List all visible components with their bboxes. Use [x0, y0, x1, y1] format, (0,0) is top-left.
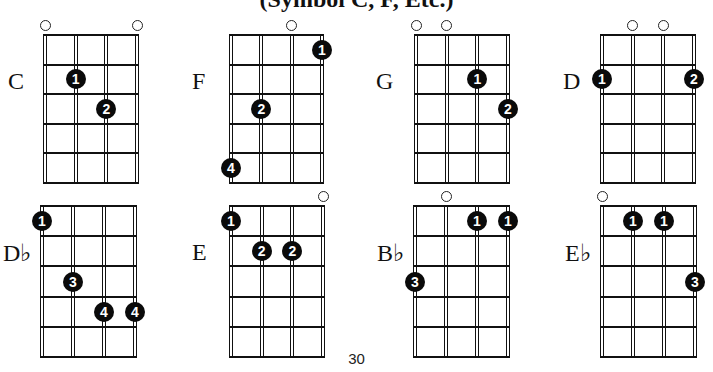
nut-line: [414, 34, 510, 36]
fret-line: [40, 296, 137, 298]
fret-line: [413, 265, 510, 267]
fret-line: [413, 235, 510, 237]
chord-name: E: [192, 239, 207, 266]
string-line: [692, 35, 696, 183]
nut-line: [600, 34, 696, 36]
finger-dot: 1: [66, 69, 86, 89]
finger-dot: 1: [623, 211, 643, 231]
chord-name: D♭: [3, 239, 31, 267]
fret-line: [43, 64, 139, 66]
fret-line: [229, 265, 325, 267]
finger-dot: 4: [221, 158, 241, 178]
chord-name: B♭: [377, 239, 404, 267]
finger-dot: 3: [405, 272, 425, 292]
fret-line: [414, 123, 510, 125]
chord-name: F: [192, 68, 205, 95]
fret-line: [40, 265, 137, 267]
fret-line: [414, 64, 510, 66]
finger-dot: 1: [467, 69, 487, 89]
finger-dot: 1: [312, 40, 332, 60]
fret-line: [600, 235, 697, 237]
string-line: [445, 35, 449, 183]
page-title: (Symbol C, F, Etc.): [0, 0, 713, 13]
open-string-icon: [40, 20, 51, 31]
finger-dot: 3: [63, 272, 83, 292]
open-string-icon: [441, 191, 452, 202]
finger-dot: 1: [654, 211, 674, 231]
finger-dot: 4: [125, 302, 145, 322]
nut-line: [229, 34, 324, 36]
finger-dot: 1: [498, 211, 518, 231]
fret-line: [40, 235, 137, 237]
fretboard-grid: 124: [231, 35, 322, 183]
fret-line: [600, 152, 696, 154]
fret-line: [229, 123, 324, 125]
finger-dot: 2: [498, 99, 518, 119]
chord-name: C: [8, 68, 24, 95]
fret-line: [40, 326, 137, 328]
fretboard-grid: 12: [45, 35, 137, 183]
fret-line: [229, 326, 325, 328]
fret-line: [600, 123, 696, 125]
fret-line: [229, 93, 324, 95]
string-line: [290, 206, 294, 357]
finger-dot: 2: [251, 99, 271, 119]
fretboard-grid: 122: [231, 206, 323, 357]
string-line: [74, 35, 78, 183]
nut-line: [229, 205, 325, 207]
nut-line: [600, 205, 697, 207]
finger-dot: 1: [467, 211, 487, 231]
finger-dot: 2: [96, 99, 116, 119]
string-line: [661, 35, 665, 183]
fretboard-grid: 1344: [42, 206, 135, 357]
fret-line: [43, 93, 139, 95]
string-line: [600, 35, 604, 183]
string-line: [102, 206, 106, 357]
fretboard-grid: 113: [415, 206, 508, 357]
finger-dot: 2: [252, 241, 272, 261]
fret-line: [229, 152, 324, 154]
fret-line: [229, 296, 325, 298]
finger-dot: 2: [282, 241, 302, 261]
fret-line: [413, 326, 510, 328]
fret-line: [229, 64, 324, 66]
fret-line: [413, 296, 510, 298]
page-number: 30: [0, 350, 713, 367]
fretboard-grid: 12: [602, 35, 694, 183]
fretboard-grid: 12: [416, 35, 508, 183]
open-string-icon: [411, 20, 422, 31]
string-line: [321, 206, 325, 357]
fret-line: [43, 182, 139, 184]
fret-line: [600, 64, 696, 66]
string-line: [43, 35, 47, 183]
finger-dot: 4: [94, 302, 114, 322]
string-line: [631, 35, 635, 183]
open-string-icon: [658, 20, 669, 31]
open-string-icon: [132, 20, 143, 31]
open-string-icon: [597, 191, 608, 202]
fret-line: [414, 152, 510, 154]
string-line: [133, 206, 137, 357]
open-string-icon: [318, 191, 329, 202]
chord-name: G: [376, 68, 393, 95]
finger-dot: 1: [221, 211, 241, 231]
fret-line: [43, 152, 139, 154]
fret-line: [229, 235, 325, 237]
string-line: [600, 206, 604, 357]
fret-line: [600, 326, 697, 328]
string-line: [260, 206, 264, 357]
finger-dot: 1: [592, 69, 612, 89]
fret-line: [414, 93, 510, 95]
chord-name: D: [563, 68, 580, 95]
nut-line: [43, 34, 139, 36]
open-string-icon: [441, 20, 452, 31]
finger-dot: 1: [32, 211, 52, 231]
string-line: [475, 35, 479, 183]
string-line: [414, 35, 418, 183]
string-line: [135, 35, 139, 183]
finger-dot: 2: [684, 69, 704, 89]
fret-line: [600, 93, 696, 95]
nut-line: [40, 205, 137, 207]
fret-line: [600, 265, 697, 267]
string-line: [444, 206, 448, 357]
